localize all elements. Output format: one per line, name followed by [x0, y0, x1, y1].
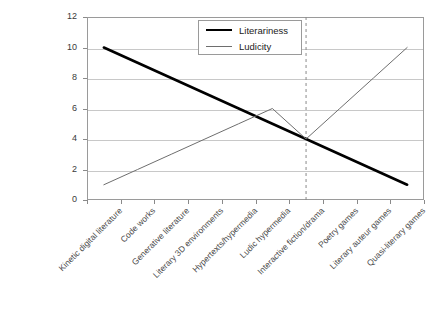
line-chart: 024681012 Kinetic digital literatureCode…: [0, 0, 442, 326]
legend-swatch-ludicity: [206, 41, 232, 51]
x-tick-mark: [289, 200, 290, 204]
y-tick-label: 12: [51, 12, 77, 21]
y-tick-label: 10: [51, 43, 77, 52]
gridline: [88, 140, 423, 141]
y-tick-label: 0: [51, 195, 77, 204]
y-tick-label: 4: [51, 134, 77, 143]
legend-swatch-literariness: [206, 25, 232, 35]
legend-entry-literariness: Literariness: [199, 22, 301, 38]
x-tick-mark: [121, 200, 122, 204]
legend-entry-ludicity: Ludicity: [199, 38, 301, 54]
x-tick-mark: [357, 200, 358, 204]
x-tick-mark: [323, 200, 324, 204]
x-tick-mark: [188, 200, 189, 204]
gridline: [88, 79, 423, 80]
y-tick-mark: [83, 139, 87, 140]
y-tick-label: 6: [51, 104, 77, 113]
x-tick-mark: [222, 200, 223, 204]
y-tick-mark: [83, 109, 87, 110]
legend-label-literariness: Literariness: [239, 25, 288, 36]
x-axis-label: Kinetic digital literature: [0, 206, 124, 326]
legend-label-ludicity: Ludicity: [239, 41, 271, 52]
x-tick-mark: [424, 200, 425, 204]
y-tick-label: 2: [51, 165, 77, 174]
y-tick-mark: [83, 170, 87, 171]
y-tick-mark: [83, 17, 87, 18]
gridline: [88, 18, 423, 19]
x-tick-mark: [87, 200, 88, 204]
gridline: [88, 171, 423, 172]
x-tick-mark: [154, 200, 155, 204]
x-tick-mark: [390, 200, 391, 204]
y-tick-mark: [83, 48, 87, 49]
x-tick-mark: [256, 200, 257, 204]
y-tick-label: 8: [51, 73, 77, 82]
legend: Literariness Ludicity: [198, 20, 302, 55]
y-tick-mark: [83, 78, 87, 79]
gridline: [88, 110, 423, 111]
